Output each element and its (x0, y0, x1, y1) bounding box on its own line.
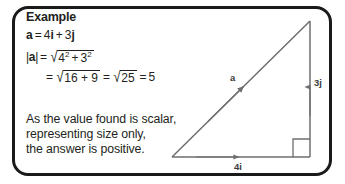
sqrt-group-2: √ 16 + 9 (56, 70, 100, 85)
label-horizontal-4i: 4i (234, 161, 242, 172)
radicand-3: 25 (120, 70, 136, 85)
radicand-2: 16 + 9 (63, 70, 100, 85)
radicand-second-exponent: 2 (87, 50, 91, 59)
magnitude-line-2: = √ 16 + 9 = √ 25 = 5 (44, 70, 176, 85)
magnitude-equals-2a: = (44, 70, 55, 84)
sqrt-symbol-2: √ (57, 70, 64, 85)
label-vertical-3j: 3j (314, 77, 322, 88)
explanation-line-2: representing size only, (26, 127, 186, 142)
definition-j-component: 3j (65, 28, 75, 42)
screenshot-root: a 3j 4i Example a=4i+3j |a|= √ 42+32 = √… (0, 0, 345, 184)
hypotenuse-arrow (208, 87, 244, 122)
magnitude-line-1: |a|= √ 42+32 (26, 50, 176, 65)
vector-definition-line: a=4i+3j (26, 27, 176, 43)
example-heading: Example (26, 10, 176, 25)
definition-i-component: 4i (44, 28, 54, 42)
label-vector-a: a (230, 72, 235, 83)
sqrt-symbol-1: √ (51, 50, 58, 65)
explanation-line-3: the answer is positive. (26, 142, 186, 157)
example-text-column: Example a=4i+3j |a|= √ 42+32 = √ 16 + 9 … (26, 10, 176, 85)
sqrt-group-1: √ 42+32 (50, 50, 94, 65)
magnitude-equals-2b: = (101, 70, 112, 84)
explanation-line-1: As the value found is scalar, (26, 112, 186, 127)
definition-plus: + (54, 28, 65, 42)
sqrt-symbol-3: √ (114, 70, 121, 85)
explanation-text: As the value found is scalar, representi… (26, 112, 186, 157)
sqrt-group-3: √ 25 (113, 70, 137, 85)
vector-a-symbol: a (26, 28, 33, 42)
radicand-plus: + (69, 51, 80, 65)
magnitude-equals-2c: = (138, 70, 149, 84)
magnitude-lhs: |a| (26, 50, 38, 64)
radicand-first-base: 4 (58, 51, 65, 65)
magnitude-equals-1: = (38, 50, 49, 64)
definition-equals: = (33, 28, 44, 42)
magnitude-result: 5 (149, 70, 156, 84)
right-angle-marker-icon (293, 139, 310, 157)
radicand-1: 42+32 (57, 50, 93, 65)
